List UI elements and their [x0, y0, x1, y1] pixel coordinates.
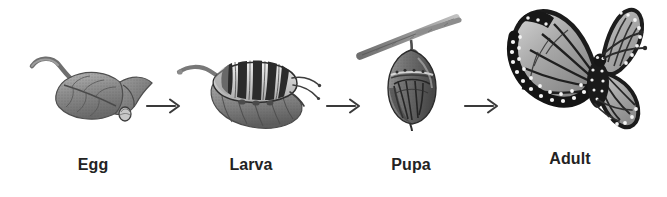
- stage-label-larva: Larva: [201, 156, 301, 174]
- stage-label-adult: Adult: [520, 150, 620, 168]
- monarch-butterfly-icon: [498, 4, 666, 144]
- chrysalis-on-twig-icon: [358, 14, 468, 132]
- stage-label-pupa: Pupa: [361, 156, 461, 174]
- caterpillar-on-leaf-icon: [176, 48, 326, 136]
- butterfly-life-cycle-diagram: Egg: [0, 0, 667, 197]
- leaf-with-egg-icon: [28, 52, 158, 130]
- stage-label-egg: Egg: [46, 156, 140, 174]
